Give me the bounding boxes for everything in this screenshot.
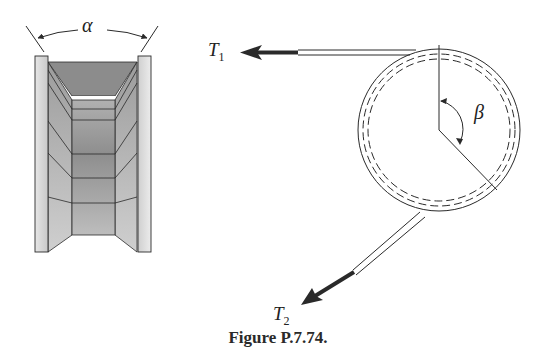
arrow-t2-icon <box>301 288 323 305</box>
beta-arrow-end-icon <box>456 138 463 145</box>
tension-t1-symbol: T <box>208 39 219 60</box>
alpha-arc-right <box>107 30 147 38</box>
tension-t2-label: T2 <box>273 303 290 325</box>
pulley-section-view <box>26 26 158 252</box>
radius-diagonal <box>439 130 497 190</box>
alpha-arc-left <box>38 30 78 38</box>
tension-t1-label: T1 <box>208 39 225 61</box>
belt-t1 <box>240 45 416 60</box>
left-flange <box>35 56 48 252</box>
figure-caption: Figure P.7.74. <box>0 328 556 348</box>
alpha-extension-left <box>26 26 44 52</box>
groove-highlight <box>70 96 117 100</box>
pulley-side-view <box>240 45 520 305</box>
beta-arrow-start-icon <box>440 98 447 104</box>
tension-t2-symbol: T <box>273 303 284 324</box>
alpha-label: α <box>82 14 93 37</box>
beta-label: β <box>474 101 484 124</box>
alpha-extension-right <box>141 26 158 52</box>
tension-t1-subscript: 1 <box>219 50 225 64</box>
tension-t2-subscript: 2 <box>284 314 290 328</box>
belt-t2 <box>301 212 425 305</box>
right-flange <box>138 56 151 252</box>
